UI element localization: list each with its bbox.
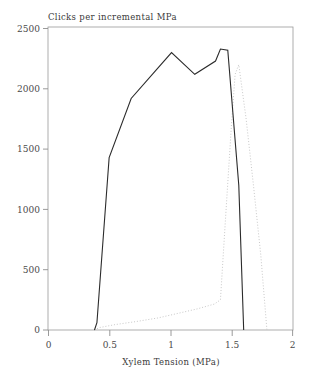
x-tick-label-0: 0	[46, 340, 52, 350]
y-axis-ticks: 2500 2000 1500 1000 500 0	[17, 24, 48, 336]
y-tick-label-1000: 1000	[17, 205, 40, 215]
y-tick-label-500: 500	[23, 265, 40, 275]
y-tick-label-1500: 1500	[17, 144, 40, 154]
x-tick-label-1: 1	[168, 340, 174, 350]
chart-title: Clicks per incremental MPa	[48, 12, 177, 22]
clicks-per-incremental-mpa-chart: Clicks per incremental MPa 2500 2000 150…	[0, 0, 312, 379]
x-tick-label-0.5: 0.5	[103, 340, 118, 350]
y-tick-label-0: 0	[34, 325, 40, 335]
plot-frame	[48, 27, 293, 330]
x-axis-title: Xylem Tension (MPa)	[122, 357, 220, 367]
x-tick-label-2: 2	[290, 340, 296, 350]
chart-page: Clicks per incremental MPa 2500 2000 150…	[0, 0, 312, 379]
dotted-series-line	[94, 65, 266, 330]
y-tick-label-2500: 2500	[17, 24, 40, 34]
x-tick-label-1.5: 1.5	[225, 340, 240, 350]
x-axis-ticks: 0 0.5 1 1.5 2	[46, 330, 296, 350]
y-tick-label-2000: 2000	[17, 84, 40, 94]
